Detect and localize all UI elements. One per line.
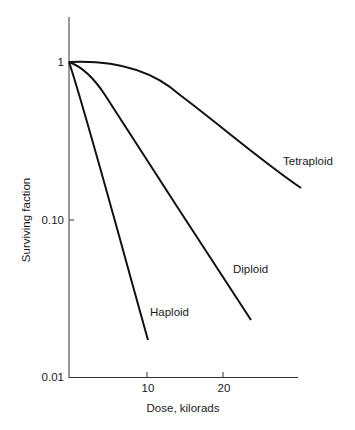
diploid-curve (69, 62, 251, 320)
x-tick-label-10: 10 (142, 382, 155, 394)
y-tick-label-1: 1 (58, 56, 64, 68)
tetraploid-label: Tetraploid (283, 155, 333, 167)
y-tick-label-001: 0.01 (42, 371, 64, 383)
survival-chart: 1 0.10 0.01 10 20 Dose, kilorads Survivi… (0, 0, 355, 430)
y-tick-label-010: 0.10 (42, 214, 64, 226)
tetraploid-curve (69, 62, 301, 188)
x-tick-label-20: 20 (218, 382, 231, 394)
y-axis-label: Surviving faction (20, 178, 32, 262)
haploid-curve (69, 62, 148, 340)
haploid-label: Haploid (150, 306, 189, 318)
diploid-label: Diploid (233, 263, 268, 275)
x-axis-label: Dose, kilorads (147, 402, 220, 414)
